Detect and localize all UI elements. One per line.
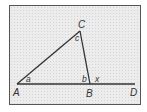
- point-label-C: C: [78, 19, 86, 30]
- point-label-B: B: [86, 88, 93, 99]
- point-label-A: A: [12, 87, 20, 98]
- angle-label-b: b: [82, 74, 87, 84]
- angle-label-a: a: [26, 74, 31, 84]
- triangle-diagram: C A B D a c b x: [0, 0, 147, 112]
- point-label-D: D: [130, 87, 137, 98]
- angle-label-c: c: [75, 33, 80, 43]
- angle-label-x: x: [94, 74, 100, 84]
